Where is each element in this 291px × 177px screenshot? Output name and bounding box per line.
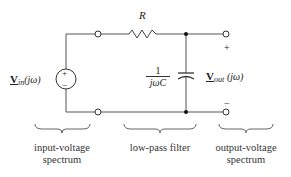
resistor-label: R (139, 9, 146, 21)
vin-symbol: V (10, 73, 18, 85)
caption-output: output-voltage spectrum (206, 142, 286, 166)
output-plus: + (224, 42, 230, 54)
caption-filter: low-pass filter (118, 142, 202, 154)
brace-output (219, 124, 273, 133)
source-minus: − (62, 79, 67, 91)
source-label: Vin(jω) (10, 73, 41, 89)
brace-filter (124, 124, 196, 133)
caption-input-line2: spectrum (22, 154, 102, 166)
caption-output-line2: spectrum (206, 154, 286, 166)
vout-symbol: V (206, 70, 214, 82)
vout-arg: (jω) (227, 71, 244, 82)
braces (35, 124, 273, 133)
caption-output-line1: output-voltage (206, 142, 286, 154)
terminal-out-top (223, 31, 229, 37)
impedance-denominator: jωC (146, 77, 170, 88)
vin-arg: (jω) (24, 74, 41, 85)
brace-input (35, 124, 90, 133)
wires (66, 34, 223, 112)
resistor-icon (129, 30, 156, 38)
output-label: Vout (jω) (206, 70, 243, 86)
capacitor-impedance: 1 jωC (146, 65, 170, 88)
vout-subscript: out (214, 75, 224, 84)
source-plus: + (62, 67, 67, 79)
terminal-in-top (95, 31, 101, 37)
caption-filter-line1: low-pass filter (118, 142, 202, 154)
impedance-numerator: 1 (146, 65, 170, 77)
output-minus: − (224, 98, 230, 110)
caption-input-line1: input-voltage (22, 142, 102, 154)
terminal-in-bottom (95, 109, 101, 115)
caption-input: input-voltage spectrum (22, 142, 102, 166)
